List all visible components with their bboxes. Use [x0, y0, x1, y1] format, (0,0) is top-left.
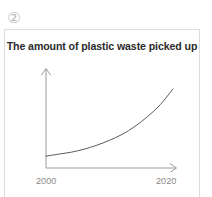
figure-panel: The amount of plastic waste picked up 20…: [4, 29, 200, 197]
line-chart-plot: [5, 60, 201, 172]
chart-title: The amount of plastic waste picked up: [5, 40, 199, 52]
chart-svg: [5, 60, 201, 172]
x-axis-tick-label-end: 2020: [156, 176, 176, 186]
data-series-line: [46, 89, 173, 156]
x-axis: [46, 164, 177, 173]
y-axis: [42, 69, 51, 169]
item-number-badge: ②: [4, 8, 24, 28]
x-axis-tick-label-start: 2000: [36, 176, 56, 186]
